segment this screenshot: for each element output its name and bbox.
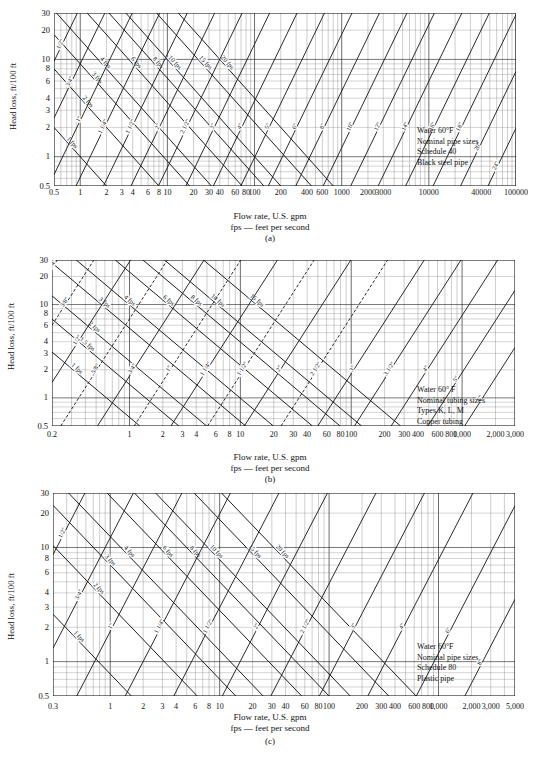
x-tick-label: 2 xyxy=(161,430,165,439)
svg-text:3/4": 3/4" xyxy=(64,75,75,88)
x-tick-label: 1 xyxy=(108,702,112,711)
pipe-friction-loss-figure: Head loss, ft/100 ft 3020108643210.5 1 f… xyxy=(0,0,540,772)
x-tick-label: 1,000 xyxy=(430,702,448,711)
y-tick-label: 30 xyxy=(16,255,48,265)
svg-text:2 1/2": 2 1/2" xyxy=(178,117,191,134)
x-tick-label: 30 xyxy=(268,702,276,711)
x-tick-label: 600 xyxy=(432,430,444,439)
y-axis-label-a: Head loss, ft/100 ft xyxy=(8,63,18,130)
x-tick-label: 60 xyxy=(231,188,239,197)
x-tick-label: 1,000 xyxy=(453,430,471,439)
x-tick-label: 40000 xyxy=(471,188,491,197)
legend-a: Water 60°FNominal pipe sizesSchedule 40B… xyxy=(417,126,478,168)
y-tick-label: 4 xyxy=(16,336,48,346)
x-tick-label: 2 xyxy=(104,188,108,197)
svg-text:1 1/4": 1 1/4" xyxy=(96,117,109,134)
svg-text:8": 8" xyxy=(318,122,327,131)
y-tick-label: 4 xyxy=(18,93,50,103)
x-tick-label: 600 xyxy=(316,188,328,197)
axis-caption-line2-c: fps — feet per second xyxy=(0,723,540,733)
svg-text:3": 3" xyxy=(347,364,356,373)
svg-text:4": 4" xyxy=(235,122,244,131)
x-tick-label: 40 xyxy=(282,702,290,711)
legend-line: Schedule 80 xyxy=(417,663,478,674)
legend-line: Types K, L, M xyxy=(417,406,485,417)
y-tick-label: 3 xyxy=(16,348,48,358)
x-tick-label: 6 xyxy=(193,702,197,711)
x-tick-label: 400 xyxy=(412,430,424,439)
x-tick-label: 10 xyxy=(236,430,244,439)
x-tick-label: 6 xyxy=(214,430,218,439)
x-tick-label: 3 xyxy=(180,430,184,439)
legend-line: Black steel pipe xyxy=(417,158,478,169)
y-tick-label: 6 xyxy=(16,320,48,330)
y-tick-label: 20 xyxy=(17,508,49,518)
legend-c: Water 60°FNominal pipe sizesSchedule 80P… xyxy=(417,642,478,684)
svg-text:2 1/2": 2 1/2" xyxy=(298,617,311,634)
svg-text:1/4": 1/4" xyxy=(52,260,58,270)
x-tick-label: 20 xyxy=(190,188,198,197)
x-tick-label: 10 xyxy=(163,188,171,197)
y-axis-label-b: Head loss, ft/100 ft xyxy=(6,303,16,370)
x-tick-label: 4 xyxy=(131,188,135,197)
y-tick-label: 20 xyxy=(16,271,48,281)
x-tick-label: 0.3 xyxy=(48,702,58,711)
x-tick-label: 2000 xyxy=(360,188,376,197)
y-tick-label: 10 xyxy=(17,542,49,552)
y-tick-label: 6 xyxy=(18,76,50,86)
x-tick-label: 40 xyxy=(216,188,224,197)
x-tick-label: 0.2 xyxy=(47,430,57,439)
svg-text:3/8": 3/8" xyxy=(58,295,70,308)
legend-line: Plastic pipe xyxy=(417,674,478,685)
x-tick-label: 30 xyxy=(289,430,297,439)
y-tick-label: 20 xyxy=(18,25,50,35)
legend-line: Nominal pipe sizes xyxy=(417,653,478,664)
x-tick-label: 4 xyxy=(174,702,178,711)
y-tick-label: 1 xyxy=(17,656,49,666)
x-tick-label: 3,000 xyxy=(482,702,500,711)
x-tick-label: 2 xyxy=(141,702,145,711)
axis-caption-line1-c: Flow rate, U.S. gpm xyxy=(0,712,540,722)
x-tick-label: 8 xyxy=(228,430,232,439)
x-tick-label: 400 xyxy=(301,188,313,197)
svg-text:12": 12" xyxy=(372,120,382,131)
legend-line: Nominal tubing sizes xyxy=(417,396,485,407)
y-tick-label: 3 xyxy=(18,105,50,115)
x-tick-label: 200 xyxy=(275,188,287,197)
x-tick-label: 2,000 xyxy=(462,702,480,711)
svg-text:1": 1" xyxy=(164,364,173,373)
x-tick-label: 3 xyxy=(120,188,124,197)
y-tick-label: 1 xyxy=(16,392,48,402)
x-tick-label: 100000 xyxy=(504,188,528,197)
panel-letter-c: (c) xyxy=(0,736,540,746)
x-tick-label: 2,000 xyxy=(486,430,504,439)
axis-caption-line1-a: Flow rate, U.S. gpm xyxy=(0,211,540,221)
x-tick-label: 8 xyxy=(207,702,211,711)
y-tick-label: 8 xyxy=(18,63,50,73)
svg-text:1 1/4": 1 1/4" xyxy=(198,360,212,377)
svg-text:1 1/4": 1 1/4" xyxy=(152,617,165,634)
legend-line: Schedule 40 xyxy=(417,147,478,158)
x-tick-label: 1 xyxy=(78,188,82,197)
x-tick-label: 400 xyxy=(389,702,401,711)
x-tick-label: 600 xyxy=(408,702,420,711)
y-tick-label: 0.5 xyxy=(16,421,48,431)
y-tick-label: 0.5 xyxy=(18,181,50,191)
y-tick-label: 30 xyxy=(17,488,49,498)
y-tick-label: 8 xyxy=(16,308,48,318)
svg-text:2 1/2": 2 1/2" xyxy=(308,360,322,377)
x-tick-label: 3000 xyxy=(375,188,391,197)
svg-text:3/4": 3/4" xyxy=(73,588,84,601)
x-tick-label: 300 xyxy=(398,430,410,439)
svg-text:6 fps: 6 fps xyxy=(161,544,175,559)
x-tick-label: 5,000 xyxy=(506,702,524,711)
x-tick-label: 20 xyxy=(249,702,257,711)
y-axis-label-c: Head loss, ft/100 ft xyxy=(6,573,16,640)
legend-line: Water 60°F xyxy=(417,126,478,137)
svg-text:1/2": 1/2" xyxy=(54,37,65,50)
x-tick-label: 60 xyxy=(323,430,331,439)
panel-letter-b: (b) xyxy=(0,474,540,484)
y-tick-label: 0.5 xyxy=(17,691,49,701)
x-tick-label: 8 xyxy=(157,188,161,197)
svg-text:4": 4" xyxy=(397,621,406,630)
